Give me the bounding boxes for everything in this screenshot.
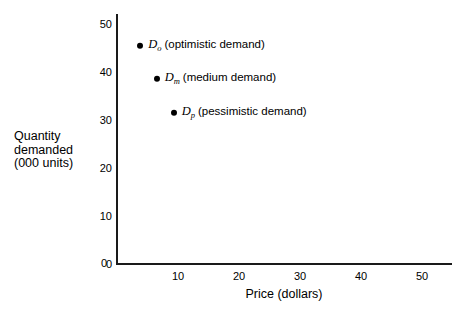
x-tick-label-30: 30: [285, 271, 315, 282]
x-tick-label-50: 50: [407, 271, 437, 282]
y-tick-label-50: 50: [86, 19, 112, 30]
point-subscript: o: [157, 43, 161, 53]
x-tick-label-20: 20: [224, 271, 254, 282]
y-tick-label-10: 10: [86, 211, 112, 222]
scatter-chart: 01020304050 01020304050 Quantity demande…: [0, 0, 468, 314]
point-description: (medium demand): [183, 71, 276, 83]
y-axis-line: [116, 14, 118, 265]
point-subscript: m: [174, 76, 180, 86]
x-tick-label-10: 10: [163, 271, 193, 282]
x-tick-label-40: 40: [346, 271, 376, 282]
y-axis-title: Quantity demanded (000 units): [14, 130, 73, 171]
data-point-d-p: Dp(pessimistic demand): [171, 105, 307, 121]
point-symbol: D: [182, 104, 191, 118]
point-marker: [171, 110, 177, 116]
y-tick-label-40: 40: [86, 67, 112, 78]
x-axis-line: [116, 263, 452, 265]
data-point-d-m: Dm(medium demand): [154, 71, 277, 87]
point-subscript: p: [191, 110, 195, 120]
point-label: Dm(medium demand): [165, 71, 277, 87]
y-tick-label-20: 20: [86, 163, 112, 174]
point-label: Do(optimistic demand): [148, 37, 265, 53]
y-tick-label-30: 30: [86, 115, 112, 126]
point-symbol: D: [165, 70, 174, 84]
point-marker: [154, 76, 160, 82]
point-marker: [137, 43, 143, 49]
point-description: (optimistic demand): [164, 37, 264, 49]
point-symbol: D: [148, 36, 157, 50]
x-axis-title: Price (dollars): [116, 288, 452, 301]
x-tick-label-0: 0: [89, 258, 119, 269]
data-point-d-o: Do(optimistic demand): [137, 37, 265, 53]
point-label: Dp(pessimistic demand): [182, 105, 307, 121]
point-description: (pessimistic demand): [198, 105, 307, 117]
